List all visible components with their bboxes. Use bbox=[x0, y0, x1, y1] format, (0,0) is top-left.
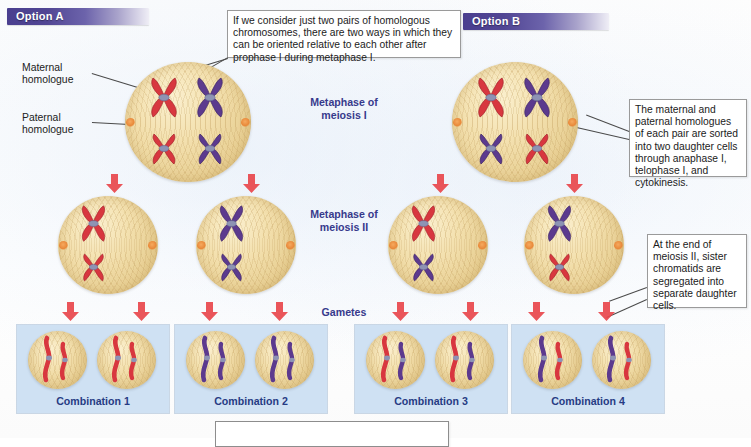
callout-right-lower-leader-a bbox=[609, 287, 647, 302]
option-b-metaphase-i-cell bbox=[452, 62, 578, 182]
arrow-down-1 bbox=[106, 174, 123, 193]
combination-1-label: Combination 1 bbox=[17, 395, 169, 407]
spindle-pole-right bbox=[614, 241, 623, 250]
option-a-label: Option A bbox=[16, 10, 64, 22]
spindle-pole-right bbox=[241, 118, 250, 127]
callout-right-lower: At the end of meiosis II, sister chromat… bbox=[647, 234, 747, 308]
arrow-down-6 bbox=[133, 302, 150, 321]
chromosome-maternal-small bbox=[80, 252, 107, 283]
gamete-panel-combination-3: Combination 3 bbox=[355, 325, 507, 413]
arrow-down-7 bbox=[201, 302, 218, 321]
chromosome-paternal-small bbox=[476, 132, 506, 166]
chromatid-paternal-long bbox=[605, 337, 620, 381]
metaphase-ii-cell-1 bbox=[58, 196, 158, 294]
spindle-pole-left bbox=[525, 241, 534, 250]
maternal-homologue-label: Maternal homologue bbox=[22, 62, 100, 87]
combination-4-label: Combination 4 bbox=[512, 395, 664, 407]
callout-bottom bbox=[215, 421, 449, 447]
arrow-down-9 bbox=[392, 302, 409, 321]
gamete-cell-2b bbox=[255, 331, 314, 389]
option-b-header: Option B bbox=[463, 13, 609, 30]
chromatid-maternal-short bbox=[553, 343, 567, 379]
chromatid-paternal-short bbox=[465, 343, 479, 379]
chromosome-maternal-large bbox=[408, 204, 439, 244]
arrow-down-12 bbox=[598, 302, 615, 321]
chromosome-maternal-small bbox=[546, 252, 573, 283]
spindle-pole-left bbox=[126, 118, 135, 127]
option-a-metaphase-i-cell bbox=[125, 62, 251, 182]
chromatid-maternal-long bbox=[110, 337, 125, 381]
spindle-pole-right bbox=[568, 118, 577, 127]
chromosome-paternal-large bbox=[544, 204, 575, 244]
spindle-pole-left bbox=[453, 118, 462, 127]
chromatid-maternal-long bbox=[448, 337, 463, 381]
arrow-down-8 bbox=[271, 302, 288, 321]
metaphase-ii-label: Metaphase of meiosis II bbox=[288, 208, 400, 233]
gamete-cell-3b bbox=[435, 331, 494, 389]
callout-right-upper: The maternal and paternal homologues of … bbox=[629, 99, 747, 177]
chromatid-maternal-short bbox=[622, 343, 636, 379]
metaphase-ii-cell-4 bbox=[524, 196, 624, 294]
arrow-down-2 bbox=[243, 174, 260, 193]
chromosome-paternal-small bbox=[410, 252, 437, 283]
chromatid-paternal-short bbox=[216, 343, 230, 379]
spindle-pole-left bbox=[59, 241, 68, 250]
callout-right-upper-leader-a bbox=[586, 115, 629, 132]
gamete-cell-1b bbox=[97, 331, 156, 389]
chromatid-maternal-short bbox=[58, 343, 72, 379]
chromosome-maternal-large bbox=[147, 76, 181, 120]
chromatid-paternal-long bbox=[268, 337, 283, 381]
combination-2-label: Combination 2 bbox=[175, 395, 327, 407]
chromatid-paternal-long bbox=[199, 337, 214, 381]
chromatid-maternal-long bbox=[379, 337, 394, 381]
arrow-down-3 bbox=[432, 174, 449, 193]
chromosome-paternal-large bbox=[216, 204, 247, 244]
arrow-down-10 bbox=[462, 302, 479, 321]
arrow-down-4 bbox=[566, 174, 583, 193]
metaphase-i-label: Metaphase of meiosis I bbox=[288, 96, 400, 121]
spindle-pole-right bbox=[478, 241, 487, 250]
spindle-pole-right bbox=[286, 241, 295, 250]
spindle-pole-left bbox=[197, 241, 206, 250]
gamete-panel-combination-2: Combination 2 bbox=[175, 325, 327, 413]
spindle-fibers bbox=[452, 62, 578, 182]
metaphase-ii-cell-3 bbox=[388, 196, 488, 294]
paternal-homologue-label: Paternal homologue bbox=[22, 112, 100, 137]
chromosome-paternal-large bbox=[193, 76, 227, 120]
option-b-label: Option B bbox=[472, 15, 520, 27]
gametes-label: Gametes bbox=[288, 306, 400, 319]
chromatid-paternal-long bbox=[536, 337, 551, 381]
spindle-pole-right bbox=[148, 241, 157, 250]
spindle-pole-left bbox=[389, 241, 398, 250]
metaphase-ii-cell-2 bbox=[196, 196, 296, 294]
callout-top: If we consider just two pairs of homolog… bbox=[227, 10, 461, 58]
chromatid-paternal-short bbox=[285, 343, 299, 379]
chromosome-paternal-small bbox=[218, 252, 245, 283]
chromosome-maternal-small bbox=[522, 132, 552, 166]
chromatid-maternal-short bbox=[127, 343, 141, 379]
gamete-panel-combination-4: Combination 4 bbox=[512, 325, 664, 413]
chromosome-maternal-large bbox=[474, 76, 508, 120]
gamete-cell-4b bbox=[592, 331, 651, 389]
arrow-down-11 bbox=[528, 302, 545, 321]
gamete-panel-combination-1: Combination 1 bbox=[17, 325, 169, 413]
chromatid-paternal-short bbox=[396, 343, 410, 379]
gamete-cell-2a bbox=[186, 331, 245, 389]
combination-3-label: Combination 3 bbox=[355, 395, 507, 407]
spindle-fibers bbox=[125, 62, 251, 182]
gamete-cell-3a bbox=[366, 331, 425, 389]
chromosome-paternal-small bbox=[195, 132, 225, 166]
chromosome-maternal-small bbox=[149, 132, 179, 166]
chromosome-paternal-large bbox=[520, 76, 554, 120]
gamete-cell-4a bbox=[523, 331, 582, 389]
chromosome-maternal-large bbox=[78, 204, 109, 244]
gamete-cell-1a bbox=[28, 331, 87, 389]
arrow-down-5 bbox=[62, 302, 79, 321]
chromatid-maternal-long bbox=[41, 337, 56, 381]
option-a-header: Option A bbox=[7, 8, 149, 25]
